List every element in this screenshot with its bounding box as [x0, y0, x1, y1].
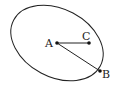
point-a — [55, 41, 59, 45]
segment-ab — [57, 43, 100, 71]
label-b: B — [102, 68, 110, 81]
label-a: A — [44, 37, 54, 50]
geometry-diagram: A C B — [0, 0, 118, 87]
label-c: C — [82, 30, 90, 43]
